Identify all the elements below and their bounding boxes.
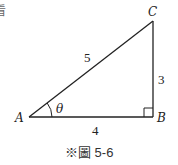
side-length-ab: 4 <box>92 123 99 138</box>
partial-glyph: 看 <box>0 4 6 18</box>
side-ac-hypotenuse <box>29 21 153 117</box>
vertex-label-c: C <box>148 5 157 19</box>
side-length-ac: 5 <box>84 50 91 65</box>
vertex-label-a: A <box>14 111 24 125</box>
angle-arc-theta <box>47 103 52 117</box>
angle-label-theta: θ <box>56 102 64 116</box>
figure-caption: ※圖 5-6 <box>65 145 113 160</box>
vertex-label-b: B <box>156 111 166 125</box>
right-triangle-diagram: 看 A B C θ 5 3 4 ※圖 5-6 <box>0 0 178 165</box>
right-angle-marker <box>144 108 153 117</box>
side-length-bc: 3 <box>158 72 165 87</box>
